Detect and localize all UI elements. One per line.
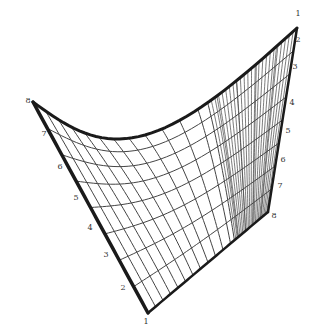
right-label-1: 1 bbox=[295, 10, 300, 18]
hyperbolic-paraboloid-diagram bbox=[0, 0, 323, 332]
left-label-6: 6 bbox=[57, 163, 62, 171]
left-label-4: 4 bbox=[87, 224, 92, 232]
grid-line-u bbox=[85, 133, 178, 288]
right-label-8: 8 bbox=[271, 212, 276, 220]
left-label-7: 7 bbox=[41, 130, 46, 138]
right-label-6: 6 bbox=[280, 156, 285, 164]
left-label-1: 1 bbox=[143, 318, 148, 326]
left-label-8: 8 bbox=[25, 97, 30, 105]
top-saddle-edge bbox=[33, 28, 297, 139]
right-label-4: 4 bbox=[289, 99, 294, 107]
right-label-5: 5 bbox=[285, 127, 290, 135]
grid-line-u bbox=[46, 111, 156, 307]
right-label-3: 3 bbox=[292, 63, 297, 71]
surface-grid-lines bbox=[46, 31, 294, 306]
left-label-3: 3 bbox=[103, 251, 108, 259]
right-label-2: 2 bbox=[295, 36, 300, 44]
bottom-edge bbox=[148, 212, 268, 313]
right-label-7: 7 bbox=[277, 182, 282, 190]
left-label-2: 2 bbox=[120, 284, 125, 292]
left-label-5: 5 bbox=[73, 194, 78, 202]
grid-line-u bbox=[99, 137, 186, 281]
